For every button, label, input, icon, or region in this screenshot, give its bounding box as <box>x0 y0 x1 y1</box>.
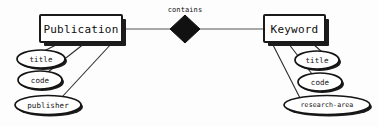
attribute-publication-code-label: code <box>31 76 50 85</box>
attribute-publication-code[interactable]: code <box>18 71 64 91</box>
attribute-keyword-research-area-label: research-area <box>301 101 354 109</box>
relationship-contains-label: contains <box>168 6 203 14</box>
entity-keyword[interactable]: Keyword <box>264 15 329 46</box>
relationship-contains[interactable]: contains <box>168 6 203 43</box>
entity-publication-label: Publication <box>43 23 118 36</box>
attribute-keyword-title-label: title <box>305 56 328 65</box>
attribute-keyword-research-area[interactable]: research-area <box>284 96 372 117</box>
er-diagram-canvas: Publication Keyword contains title code <box>0 0 378 127</box>
entity-publication[interactable]: Publication <box>40 15 126 46</box>
er-diagram-svg: Publication Keyword contains title code <box>0 0 378 127</box>
attribute-publication-title[interactable]: title <box>17 50 67 70</box>
connector-publication-publisher <box>62 43 112 97</box>
attribute-publication-publisher-label: publisher <box>27 101 69 110</box>
attribute-publication-publisher[interactable]: publisher <box>15 96 83 117</box>
attribute-publication-title-label: title <box>29 55 52 64</box>
relationship-diamond-icon <box>170 15 200 43</box>
entity-keyword-label: Keyword <box>271 23 319 36</box>
attribute-keyword-code[interactable]: code <box>298 73 344 93</box>
attribute-keyword-code-label: code <box>311 78 330 87</box>
attribute-keyword-title[interactable]: title <box>295 51 341 71</box>
connector-keyword-research-area <box>272 43 300 98</box>
